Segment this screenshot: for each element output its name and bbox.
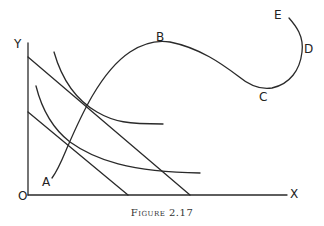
indifference-curve-lower	[36, 86, 200, 173]
point-label-e: E	[274, 9, 282, 21]
x-axis-label: X	[290, 188, 298, 200]
figure-caption: Figure 2.17	[0, 207, 324, 218]
point-label-b: B	[156, 31, 164, 43]
origin-label: O	[18, 190, 27, 202]
point-label-c: C	[259, 91, 267, 103]
budget-line-outer	[28, 57, 190, 195]
point-label-d: D	[304, 43, 313, 55]
y-axis-label: Y	[14, 38, 21, 50]
point-label-a: A	[42, 176, 50, 188]
indifference-curve-upper	[54, 52, 163, 124]
figure-2-17: Y O X A B C D E Figure 2.17	[0, 0, 324, 226]
